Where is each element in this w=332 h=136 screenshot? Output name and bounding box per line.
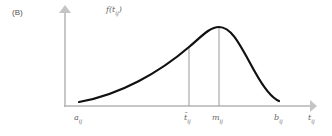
x-axis-label: tij bbox=[308, 113, 315, 124]
y-axis-label: f(tij) bbox=[106, 5, 122, 16]
tick-label-mean: t̄ij bbox=[184, 113, 191, 124]
tick-label-b: bij bbox=[274, 113, 283, 124]
tick-label-mode: mij bbox=[212, 113, 223, 124]
x-axis-arrow-icon bbox=[310, 100, 317, 112]
tick-label-a: aij bbox=[74, 113, 82, 124]
y-axis-arrow-icon bbox=[59, 5, 71, 13]
density-curve bbox=[79, 27, 279, 102]
